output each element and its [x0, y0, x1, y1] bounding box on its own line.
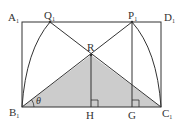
label-q1: Q1: [44, 9, 55, 22]
label-p1: P1: [128, 9, 137, 22]
label-b1: B1: [9, 106, 19, 119]
label-r: R: [87, 41, 95, 53]
geometry-diagram: A1 Q1 P1 D1 R B1 H G C1 θ: [0, 0, 180, 124]
point-p1: [131, 21, 134, 24]
label-a1: A1: [8, 11, 19, 24]
label-c1: C1: [162, 107, 172, 120]
label-g: G: [128, 109, 136, 121]
label-theta: θ: [36, 95, 41, 106]
label-h: H: [86, 109, 94, 121]
point-r: [90, 54, 93, 57]
point-q1: [49, 21, 52, 24]
label-d1: D1: [164, 11, 175, 24]
